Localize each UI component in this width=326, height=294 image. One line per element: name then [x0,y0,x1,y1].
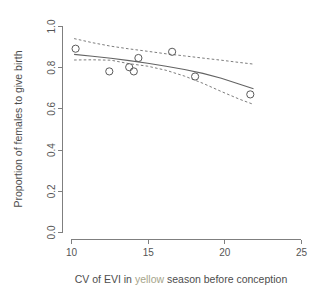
x-axis-title: CV of EVI in yellow season before concep… [75,273,288,285]
figure-panel: 0.0 0.2 0.4 0.6 0.8 1.0 10 15 20 25 [0,0,326,294]
x-tick-label-3: 25 [296,247,308,258]
y-tick-label-5: 1.0 [46,19,57,33]
y-tick-label-3: 0.6 [46,102,57,116]
x-axis-title-before: CV of EVI in [75,273,135,285]
x-tick-label-0: 10 [66,247,78,258]
x-tick-label-2: 20 [219,247,231,258]
y-tick-label-1: 0.2 [46,184,57,198]
x-tick-label-1: 15 [143,247,155,258]
x-axis-title-after: season before conception [164,273,287,285]
scatter-plot: 0.0 0.2 0.4 0.6 0.8 1.0 10 15 20 25 [0,0,326,294]
y-axis-title: Proportion of females to give birth [12,50,24,207]
x-axis-title-accent: yellow [135,273,165,285]
y-tick-label-4: 0.8 [46,60,57,74]
y-tick-label-0: 0.0 [46,225,57,239]
y-tick-label-2: 0.4 [46,143,57,157]
